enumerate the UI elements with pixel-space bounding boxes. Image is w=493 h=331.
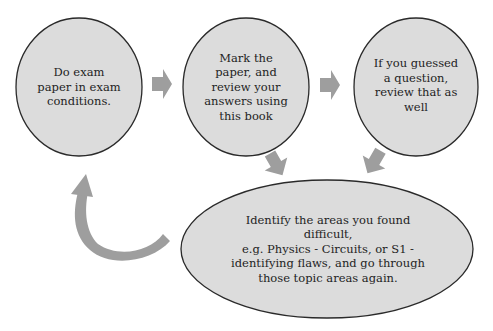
step-1-line: conditions. [37,94,120,109]
step-2-line: answers using [204,94,288,109]
step-4-label: Identify the areas you found difficult, … [220,218,436,280]
step-1-line: Do exam [37,65,120,80]
step-2-label: Mark the paper, and review your answers … [188,45,304,129]
step-4-line: Identify the areas you found difficult, [220,213,436,242]
step-3-label: If you guessed a question, review that a… [358,54,474,116]
arrow-down-left-icon [356,144,392,180]
step-4-line: identifying flaws, and go through [220,256,436,271]
step-3-line: a question, [374,71,458,86]
step-4-line: e.g. Physics - Circuits, or S1 - [220,242,436,257]
step-2-line: Mark the [204,51,288,66]
step-4-line: those topic areas again. [220,271,436,286]
step-3-line: If you guessed [374,56,458,71]
step-2-line: this book [204,109,288,124]
step-2-line: paper, and [204,65,288,80]
arrow-right-icon [152,69,172,99]
curved-return-arrow-icon [71,174,170,261]
step-1-line: paper in exam [37,80,120,95]
step-1-label: Do exam paper in exam conditions. [24,50,134,124]
arrow-right-icon [320,70,340,100]
step-3-line: review that as [374,85,458,100]
step-3-line: well [374,100,458,115]
step-2-line: review your [204,80,288,95]
